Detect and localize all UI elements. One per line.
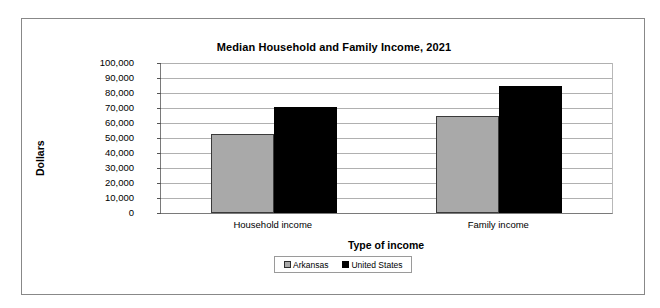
- gridline: [161, 63, 612, 64]
- x-axis-category-label: Family income: [386, 219, 612, 230]
- y-axis-tick-label: 0: [50, 208, 134, 218]
- y-axis-tick-mark: [157, 63, 161, 64]
- y-axis-tick-mark: [157, 108, 161, 109]
- y-axis-tick-label: 10,000: [50, 193, 134, 203]
- gridline: [161, 78, 612, 79]
- y-axis-tick-mark: [157, 153, 161, 154]
- chart-frame: Median Household and Family Income, 2021…: [21, 18, 645, 295]
- legend-entry-united-states[interactable]: United States: [342, 260, 402, 270]
- legend-label: United States: [351, 260, 402, 270]
- bar-united-states-household-income[interactable]: [274, 107, 337, 214]
- legend-swatch-icon: [342, 261, 349, 268]
- bar-arkansas-household-income[interactable]: [211, 134, 274, 213]
- legend-label: Arkansas: [293, 260, 328, 270]
- y-axis-tick-label: 30,000: [50, 163, 134, 173]
- y-axis-tick-mark: [157, 123, 161, 124]
- chart-title: Median Household and Family Income, 2021: [22, 41, 646, 53]
- x-axis-category-label: Household income: [160, 219, 386, 230]
- y-axis-tick-label: 70,000: [50, 103, 134, 113]
- x-axis-title: Type of income: [160, 239, 612, 251]
- y-axis-tick-label: 60,000: [50, 118, 134, 128]
- chart-legend: ArkansasUnited States: [274, 256, 412, 273]
- y-axis-tick-label: 50,000: [50, 133, 134, 143]
- y-axis-tick-mark: [157, 183, 161, 184]
- y-axis-tick-label: 90,000: [50, 73, 134, 83]
- y-axis-tick-mark: [157, 213, 161, 214]
- y-axis-tick-labels: 100,00090,00080,00070,00060,00050,00040,…: [50, 63, 134, 213]
- legend-swatch-icon: [284, 261, 291, 268]
- legend-entry-arkansas[interactable]: Arkansas: [284, 260, 328, 270]
- y-axis-tick-mark: [157, 138, 161, 139]
- y-axis-tick-label: 40,000: [50, 148, 134, 158]
- y-axis-tick-label: 80,000: [50, 88, 134, 98]
- bar-arkansas-family-income[interactable]: [436, 116, 499, 214]
- y-axis-tick-mark: [157, 78, 161, 79]
- y-axis-title: Dollars: [32, 113, 48, 203]
- y-axis-tick-mark: [157, 198, 161, 199]
- bar-united-states-family-income[interactable]: [499, 86, 562, 214]
- y-axis-tick-label: 20,000: [50, 178, 134, 188]
- plot-area: [160, 63, 613, 214]
- y-axis-tick-mark: [157, 168, 161, 169]
- y-axis-tick-mark: [157, 93, 161, 94]
- y-axis-tick-label: 100,000: [50, 58, 134, 68]
